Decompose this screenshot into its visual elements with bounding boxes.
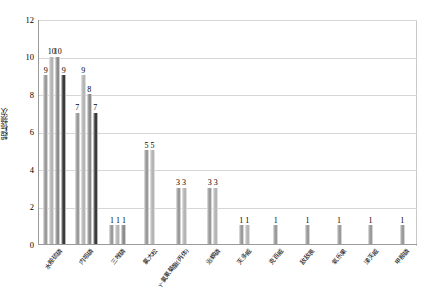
bar-value-label: 1	[369, 216, 373, 225]
bar-slot: 7	[92, 20, 98, 244]
bar: 5	[150, 150, 155, 244]
x-axis-label-text: 三唑磷	[110, 247, 127, 266]
bar-group: 1	[292, 20, 324, 244]
bar: 10	[49, 57, 54, 245]
bar-value-label: 3	[176, 178, 180, 187]
x-axis-label-text: 氯大松	[141, 247, 158, 266]
bar-group: 1	[386, 20, 418, 244]
bar: 1	[368, 225, 373, 244]
x-axis-label-text: 内吸磷	[78, 247, 95, 266]
bar-value-label: 5	[145, 141, 149, 150]
bar-value-label: 9	[44, 66, 48, 75]
bar-value-label: 3	[208, 178, 212, 187]
bar-slot: 9	[61, 20, 67, 244]
x-axis-label-text: 灭多威	[236, 247, 253, 266]
bar: 9	[81, 75, 86, 244]
bar: 9	[61, 75, 66, 244]
bar: 9	[43, 75, 48, 244]
bar-value-label: 7	[93, 103, 97, 112]
bar-value-label: 8	[87, 85, 91, 94]
bar: 8	[87, 94, 92, 244]
bar-slot: 5	[150, 20, 156, 244]
bar: 3	[182, 188, 187, 244]
bar: 1	[115, 225, 120, 244]
bar: 1	[239, 225, 244, 244]
bar-value-label: 5	[151, 141, 155, 150]
bar-slot: 3	[213, 20, 219, 244]
bar: 5	[144, 150, 149, 244]
y-tick-4: 4	[18, 166, 34, 175]
bar-value-label: 1	[274, 216, 278, 225]
x-axis-label-text: 水胺硫磷	[43, 247, 64, 271]
bar-group: 1	[355, 20, 387, 244]
plot-area: 91010979871115533331111111	[38, 20, 417, 245]
bar-value-label: 9	[62, 66, 66, 75]
bar: 7	[93, 113, 98, 244]
x-axis-label-text: 治螟磷	[204, 247, 221, 266]
bar: 10	[55, 57, 60, 245]
bar-group: 33	[165, 20, 197, 244]
bar: 1	[273, 225, 278, 244]
bar-group: 11	[229, 20, 261, 244]
bar-group: 55	[134, 20, 166, 244]
bar-slot: 1	[121, 20, 127, 244]
bar-value-label: 1	[116, 216, 120, 225]
bar-slot: 1	[336, 20, 342, 244]
bar-value-label: 9	[81, 66, 85, 75]
bar: 1	[400, 225, 405, 244]
y-tick-6: 6	[18, 128, 34, 137]
y-tick-0: 0	[18, 241, 34, 250]
y-axis-title: 超标频次	[1, 108, 15, 140]
bar-group: 1	[323, 20, 355, 244]
bar-value-label: 7	[75, 103, 79, 112]
y-tick-12: 12	[18, 16, 34, 25]
bar: 1	[337, 225, 342, 244]
bar: 7	[75, 113, 80, 244]
y-tick-10: 10	[18, 53, 34, 62]
bar: 3	[176, 188, 181, 244]
x-axis-category-labels: 水胺硫磷内吸磷三唑磷氯大松γ-氯氰菊酯(丙体)治螟磷灭多威克百威敌敌畏氧乐果涕灭…	[38, 247, 417, 299]
y-axis-tick-labels: 024681012	[14, 0, 34, 299]
bar-chart: 超标频次 024681012 9101097987111553333111111…	[0, 0, 425, 299]
bar-value-label: 3	[214, 178, 218, 187]
bar-value-label: 3	[182, 178, 186, 187]
bar-slot: 1	[399, 20, 405, 244]
x-axis-label-text: 敌敌畏	[299, 247, 316, 266]
bar-value-label: 1	[400, 216, 404, 225]
y-tick-2: 2	[18, 203, 34, 212]
bar-slot: 1	[304, 20, 310, 244]
bar: 1	[245, 225, 250, 244]
y-tick-8: 8	[18, 91, 34, 100]
x-axis-label-text: 克百威	[268, 247, 285, 266]
bar-value-label: 1	[245, 216, 249, 225]
bar-slot: 1	[273, 20, 279, 244]
bar-slot: 3	[181, 20, 187, 244]
bar-value-label: 1	[122, 216, 126, 225]
bar-value-label: 1	[239, 216, 243, 225]
bar-group: 111	[102, 20, 134, 244]
bar-slot: 1	[244, 20, 250, 244]
x-axis-label-text: 甲胺磷	[394, 247, 411, 266]
bar-value-label: 1	[305, 216, 309, 225]
bar: 1	[305, 225, 310, 244]
bar-value-label: 1	[337, 216, 341, 225]
x-axis-label-text: 涕灭威	[362, 247, 379, 266]
bar-value-label: 1	[110, 216, 114, 225]
x-axis-label-text: 氧乐果	[331, 247, 348, 266]
bar-slot: 1	[368, 20, 374, 244]
bar: 1	[109, 225, 114, 244]
x-axis-label-text: γ-氯氰菊酯(丙体)	[156, 247, 190, 287]
bar-group: 910109	[39, 20, 71, 244]
bar-group: 1	[260, 20, 292, 244]
bar-group: 7987	[71, 20, 103, 244]
bars-layer: 91010979871115533331111111	[39, 20, 417, 244]
